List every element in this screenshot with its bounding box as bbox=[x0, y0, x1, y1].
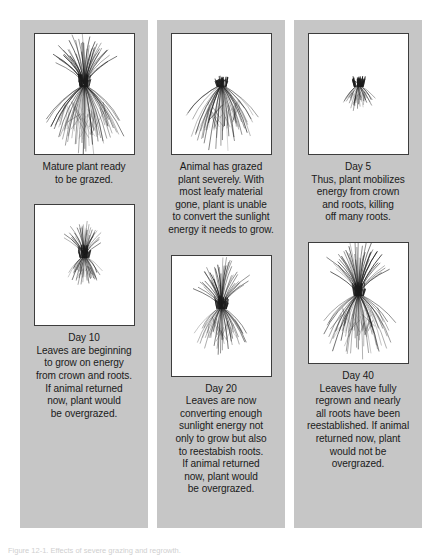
panel-2-bottom-caption: Day 20 Leaves are now converting enough … bbox=[161, 383, 281, 496]
grazing-recovery-figure: Mature plant ready to be grazed. Day 10 … bbox=[0, 0, 442, 558]
day-10-plant-illustration bbox=[34, 204, 135, 326]
day-5-plant-illustration bbox=[308, 33, 409, 155]
panel-1-top-cell: Mature plant ready to be grazed. bbox=[20, 20, 148, 186]
panel-3: Day 5 Thus, plant mobilizes energy from … bbox=[294, 20, 422, 528]
figure-note: Figure 12-1. Effects of severe grazing a… bbox=[8, 546, 438, 555]
panel-3-bottom-caption: Day 40 Leaves have fully regrown and nea… bbox=[298, 370, 418, 471]
panel-1: Mature plant ready to be grazed. Day 10 … bbox=[20, 20, 148, 528]
panel-2-top-cell: Animal has grazed plant severely. With m… bbox=[157, 20, 285, 237]
panel-row: Mature plant ready to be grazed. Day 10 … bbox=[20, 20, 422, 528]
panel-3-top-caption: Day 5 Thus, plant mobilizes energy from … bbox=[298, 161, 418, 224]
day-40-plant-illustration bbox=[308, 242, 409, 364]
day-20-plant-illustration bbox=[171, 255, 272, 377]
panel-3-bottom-cell: Day 40 Leaves have fully regrown and nea… bbox=[294, 224, 422, 471]
panel-2: Animal has grazed plant severely. With m… bbox=[157, 20, 285, 528]
panel-1-bottom-cell: Day 10 Leaves are beginning to grow on e… bbox=[20, 186, 148, 420]
mature-plant-illustration bbox=[34, 33, 135, 155]
panel-2-top-caption: Animal has grazed plant severely. With m… bbox=[161, 161, 281, 237]
panel-1-bottom-caption: Day 10 Leaves are beginning to grow on e… bbox=[24, 332, 144, 420]
panel-1-top-caption: Mature plant ready to be grazed. bbox=[24, 161, 144, 186]
grazed-plant-illustration bbox=[171, 33, 272, 155]
panel-3-top-cell: Day 5 Thus, plant mobilizes energy from … bbox=[294, 20, 422, 224]
panel-2-bottom-cell: Day 20 Leaves are now converting enough … bbox=[157, 237, 285, 496]
